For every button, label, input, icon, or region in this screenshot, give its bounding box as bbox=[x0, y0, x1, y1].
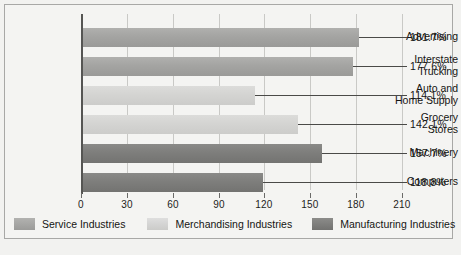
tick-90 bbox=[219, 193, 220, 198]
legend-item-manufacturing-industries[interactable]: Manufacturing Industries bbox=[312, 218, 455, 230]
value-label-interstate-trucking: 177.6% bbox=[410, 60, 447, 72]
legend-swatch-icon bbox=[14, 218, 35, 230]
leader-line-advertising bbox=[359, 37, 407, 38]
value-label-computers: 118.8% bbox=[410, 176, 446, 188]
tick-30 bbox=[127, 193, 128, 198]
legend-label: Service Industries bbox=[42, 218, 125, 230]
xtick-label-150: 150 bbox=[290, 199, 330, 210]
bar-interstate-trucking[interactable] bbox=[81, 57, 353, 76]
legend-swatch-icon bbox=[312, 218, 333, 230]
tick-0 bbox=[81, 193, 82, 198]
legend-swatch-icon bbox=[147, 218, 168, 230]
value-label-machinery: 157.7% bbox=[410, 147, 447, 159]
legend-label: Merchandising Industries bbox=[175, 218, 292, 230]
bar-advertising[interactable] bbox=[81, 28, 359, 47]
x-axis-line bbox=[81, 193, 402, 194]
chart-figure: 0 30 60 90 120 150 180 210 Advertising I… bbox=[0, 0, 461, 255]
value-label-auto-and-home-supply: 114.1% bbox=[410, 89, 446, 101]
tick-120 bbox=[264, 193, 265, 198]
leader-line-auto-and-home-supply bbox=[255, 95, 407, 96]
bar-auto-and-home-supply[interactable] bbox=[81, 86, 255, 105]
tick-60 bbox=[173, 193, 174, 198]
value-label-advertising: 181.7% bbox=[410, 31, 447, 43]
legend-item-merchandising-industries[interactable]: Merchandising Industries bbox=[147, 218, 292, 230]
xtick-label-90: 90 bbox=[199, 199, 239, 210]
xtick-label-30: 30 bbox=[107, 199, 147, 210]
leader-line-interstate-trucking bbox=[353, 66, 407, 67]
tick-210 bbox=[402, 193, 403, 198]
legend-label: Manufacturing Industries bbox=[340, 218, 455, 230]
bar-grocery-stores[interactable] bbox=[81, 115, 298, 134]
xtick-label-60: 60 bbox=[153, 199, 193, 210]
bar-computers[interactable] bbox=[81, 173, 263, 192]
xtick-label-0: 0 bbox=[61, 199, 101, 210]
tick-150 bbox=[310, 193, 311, 198]
chart-legend: Service Industries Merchandising Industr… bbox=[14, 215, 446, 233]
xtick-label-120: 120 bbox=[244, 199, 284, 210]
legend-item-service-industries[interactable]: Service Industries bbox=[14, 218, 125, 230]
bar-machinery[interactable] bbox=[81, 144, 322, 163]
leader-line-computers bbox=[263, 182, 407, 183]
leader-line-machinery bbox=[322, 153, 407, 154]
value-label-grocery-stores: 142.1% bbox=[410, 118, 447, 130]
y-axis-line bbox=[81, 14, 83, 194]
xtick-label-210: 210 bbox=[382, 199, 422, 210]
tick-180 bbox=[356, 193, 357, 198]
leader-line-grocery-stores bbox=[298, 124, 407, 125]
plot-area bbox=[81, 14, 402, 190]
xtick-label-180: 180 bbox=[336, 199, 376, 210]
